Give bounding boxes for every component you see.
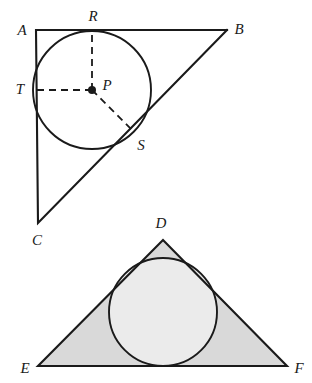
label-vertex-c: C	[32, 233, 42, 248]
radius-p-to-s	[92, 90, 134, 132]
geometry-figure: A B C P R T S D E F	[0, 0, 312, 383]
label-vertex-a: A	[17, 23, 26, 38]
label-tangent-t: T	[16, 82, 24, 97]
label-tangent-r: R	[88, 9, 97, 24]
label-point-p: P	[102, 78, 111, 93]
right-triangle-abc	[36, 30, 227, 223]
lower-figure-group	[38, 240, 287, 366]
label-vertex-f: F	[294, 361, 303, 376]
label-tangent-s: S	[137, 138, 145, 153]
geometry-canvas	[0, 0, 312, 383]
upper-figure-group	[33, 30, 227, 223]
label-vertex-b: B	[234, 22, 243, 37]
center-point-p-dot	[88, 86, 96, 94]
label-vertex-e: E	[20, 361, 29, 376]
label-vertex-d: D	[156, 216, 167, 231]
